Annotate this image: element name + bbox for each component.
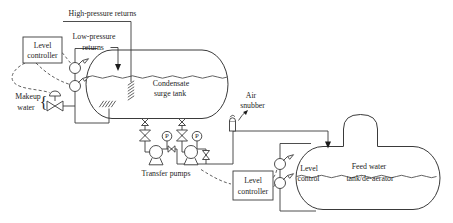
pressure-gauge-label: P: [195, 132, 199, 139]
diagram-page: P P High-pressure returns Low-pressure r…: [0, 0, 453, 223]
makeup-water-brace: {: [40, 94, 48, 111]
gate-valve-icon: [177, 130, 188, 141]
feed-water-tank-label: Feed water: [352, 162, 387, 171]
air-snubber-label: snubber: [240, 101, 265, 110]
condensate-surge-tank-label: Condensate: [153, 79, 190, 88]
isolation-valve-icon: [179, 119, 186, 126]
transfer-pumps-label: Transfer pumps: [142, 169, 191, 178]
feed-level-control-label: Level: [300, 164, 319, 173]
isolation-valve-icon: [142, 119, 149, 126]
pressure-gauge-label: P: [165, 132, 169, 139]
feed-level-control-label: control: [297, 174, 320, 183]
deaerator-dome: [344, 115, 378, 147]
low-pressure-returns-label: Low-pressure: [73, 32, 116, 41]
air-snubber-label: Air: [246, 91, 257, 100]
gate-valve-icon: [140, 130, 151, 141]
air-snubber-pointer-arrow: [239, 113, 245, 121]
check-valve-icon: [168, 146, 175, 152]
feed-level-controller-label: controller: [238, 187, 269, 196]
transfer-pump-1-icon: [149, 146, 163, 165]
condensate-surge-tank-label: surge tank: [154, 89, 186, 98]
condensate-level-controller-label: controller: [27, 51, 58, 60]
signal-line-to-lower-tap: [36, 63, 70, 85]
pressure-gauge-2-icon: P: [192, 131, 202, 141]
level-tap-valve-icon: [275, 174, 294, 189]
makeup-control-valve-icon: [47, 91, 63, 111]
signal-line-to-feed-controller: [201, 170, 231, 185]
signal-line-to-upper-tap: [62, 53, 72, 65]
piping-diagram-canvas: P P High-pressure returns Low-pressure r…: [0, 0, 453, 223]
signal-line-to-makeup-valve: [12, 63, 49, 93]
signal-line-feed-tap-upper: [274, 169, 278, 178]
level-tap-valve-icon: [70, 59, 89, 74]
air-snubber-icon: [230, 115, 236, 131]
makeup-water-label: water: [17, 103, 35, 112]
feed-level-controller-label: Level: [244, 176, 263, 185]
level-tap-valve-icon: [275, 155, 294, 170]
air-snubber-arrowhead-icon: [243, 110, 248, 115]
check-valve-icon: [203, 151, 210, 160]
makeup-water-label: Makeup: [15, 92, 41, 101]
transfer-pump-2-icon: [184, 146, 198, 165]
high-pressure-returns-label: High-pressure returns: [69, 9, 137, 18]
condensate-level-controller-label: Level: [34, 41, 53, 50]
pressure-gauge-1-icon: P: [162, 131, 172, 141]
low-pressure-returns-label: returns: [82, 43, 104, 52]
feed-water-tank-label: tank/de-aerator: [346, 174, 394, 183]
